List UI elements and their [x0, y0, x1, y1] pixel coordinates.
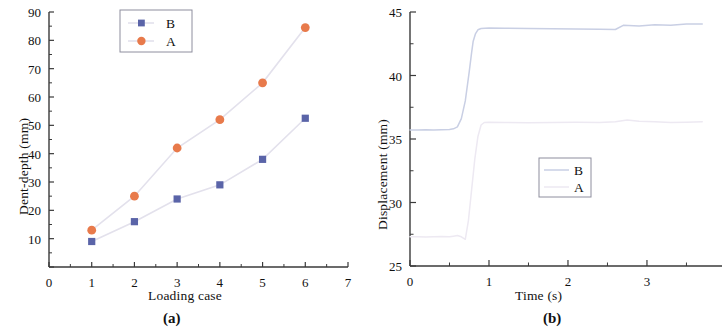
- y-tick-label-b: 45: [389, 5, 402, 20]
- dent-depth-plot: 01234567102030405060708090BA: [0, 0, 361, 300]
- legend-label-a: A: [574, 180, 584, 195]
- y-tick-label-a: 90: [28, 5, 41, 20]
- legend-box-a: [120, 10, 192, 52]
- data-point-b: [259, 156, 266, 163]
- legend-label-a: A: [166, 34, 176, 49]
- y-axis-title-a: Dent-depth (mm): [16, 118, 32, 215]
- x-axis-title-b: Time (s): [515, 288, 562, 304]
- chart-panel-a: 01234567102030405060708090BA Dent-depth …: [0, 0, 361, 334]
- x-tick-label-b: 0: [407, 274, 414, 289]
- y-tick-label-a: 80: [28, 33, 41, 48]
- y-tick-label-a: 70: [28, 62, 41, 77]
- series-connector-a: [92, 28, 306, 231]
- data-point-a: [173, 144, 182, 153]
- data-point-b: [216, 181, 223, 188]
- x-tick-label-b: 2: [565, 274, 572, 289]
- x-tick-label-b: 1: [486, 274, 493, 289]
- data-point-b: [302, 115, 309, 122]
- data-point-a: [301, 23, 310, 32]
- displacement-plot: 01232530354045BA: [361, 0, 722, 300]
- chart-panel-b: 01232530354045BA Displacement (mm) Time …: [361, 0, 722, 334]
- data-point-a: [258, 78, 267, 87]
- data-point-a: [215, 115, 224, 124]
- x-tick-label-a: 6: [302, 275, 309, 290]
- legend-label-b: B: [574, 163, 583, 178]
- data-point-b: [131, 218, 138, 225]
- x-tick-label-a: 1: [88, 275, 95, 290]
- x-tick-label-a: 5: [259, 275, 266, 290]
- y-tick-label-a: 10: [28, 232, 41, 247]
- x-tick-label-b: 3: [644, 274, 651, 289]
- x-tick-label-a: 2: [131, 275, 138, 290]
- series-connector-b: [92, 118, 306, 241]
- curve-b: [410, 24, 702, 130]
- x-axis-title-a: Loading case: [148, 288, 222, 304]
- legend-label-b: B: [166, 16, 175, 31]
- legend-marker-a: [137, 37, 145, 45]
- data-point-a: [87, 226, 96, 235]
- y-tick-label-b: 25: [389, 259, 402, 274]
- legend-marker-b: [138, 20, 145, 27]
- x-tick-label-a: 7: [345, 275, 352, 290]
- y-tick-label-a: 60: [28, 90, 41, 105]
- panel-caption-b: (b): [543, 310, 561, 327]
- figure-container: 01234567102030405060708090BA Dent-depth …: [0, 0, 722, 334]
- data-point-b: [88, 238, 95, 245]
- x-tick-label-a: 0: [46, 275, 53, 290]
- data-point-a: [130, 192, 139, 201]
- panel-caption-a: (a): [163, 310, 181, 327]
- data-point-b: [174, 195, 181, 202]
- y-axis-title-b: Displacement (mm): [375, 119, 391, 230]
- y-tick-label-b: 40: [389, 69, 402, 84]
